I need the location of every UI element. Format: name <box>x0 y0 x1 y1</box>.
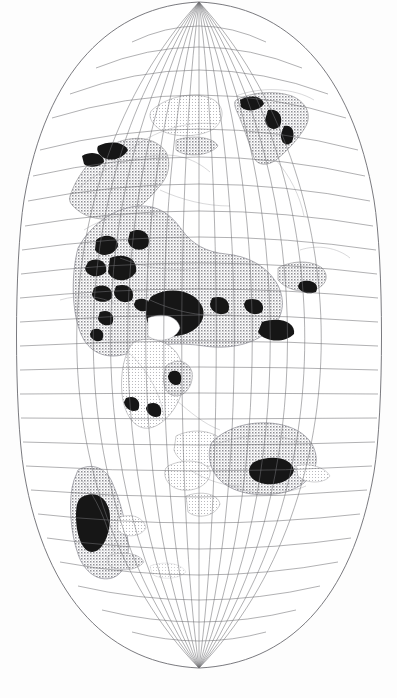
map-page <box>0 0 397 698</box>
world-map-figure <box>0 0 397 698</box>
